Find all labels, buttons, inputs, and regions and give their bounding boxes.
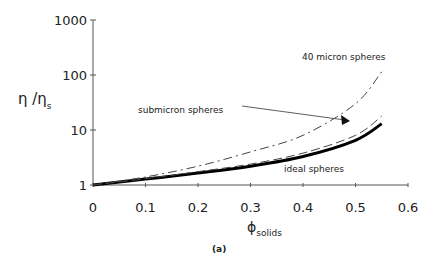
y-axis-label: η /ηs xyxy=(18,90,52,111)
series-ideal-spheres xyxy=(93,124,382,185)
svg-text:100: 100 xyxy=(62,68,87,83)
svg-text:10: 10 xyxy=(70,123,87,138)
svg-text:0.5: 0.5 xyxy=(345,200,366,215)
x-axis-label: ϕsolids xyxy=(247,219,282,238)
svg-text:ϕsolids: ϕsolids xyxy=(247,219,282,238)
axes xyxy=(90,20,408,187)
svg-text:0.2: 0.2 xyxy=(188,200,209,215)
annotation-ideal: ideal spheres xyxy=(284,164,344,174)
svg-text:0.4: 0.4 xyxy=(293,200,314,215)
arrow-head xyxy=(341,115,350,125)
annotation-submicron: submicron spheres xyxy=(138,105,224,115)
chart: 00.10.20.30.40.50.61101001000 40 micron … xyxy=(0,0,443,271)
arrow-line xyxy=(242,106,345,120)
series-submicron-spheres xyxy=(93,116,382,185)
svg-text:1000: 1000 xyxy=(54,13,87,28)
caption: (a) xyxy=(212,244,226,254)
svg-text:0.3: 0.3 xyxy=(240,200,261,215)
annotation-40-micron: 40 micron spheres xyxy=(302,52,386,62)
svg-text:0.6: 0.6 xyxy=(398,200,419,215)
svg-text:η /ηs: η /ηs xyxy=(18,90,52,111)
svg-text:0: 0 xyxy=(89,200,97,215)
annotations: 40 micron spheres submicron spheres idea… xyxy=(138,52,386,174)
svg-text:0.1: 0.1 xyxy=(135,200,156,215)
svg-text:1: 1 xyxy=(79,178,87,193)
